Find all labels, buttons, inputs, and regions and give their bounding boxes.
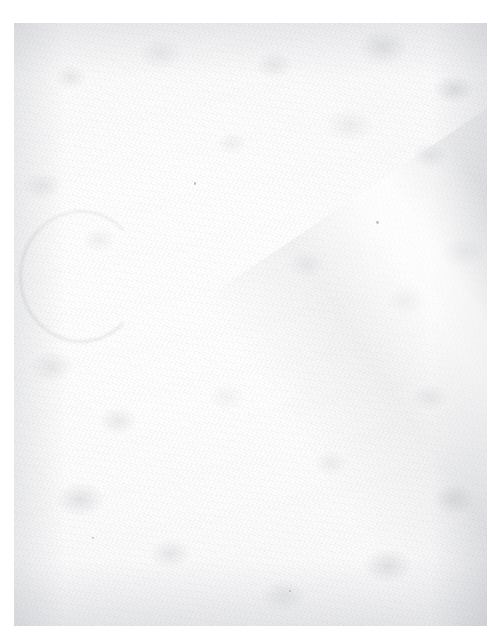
dust-speck	[194, 182, 196, 184]
scanned-page-sheet	[14, 23, 487, 626]
scan-viewport	[0, 0, 503, 642]
dust-speck	[376, 221, 379, 224]
dust-speck	[92, 537, 94, 539]
stain-arc-artifact	[19, 210, 143, 343]
